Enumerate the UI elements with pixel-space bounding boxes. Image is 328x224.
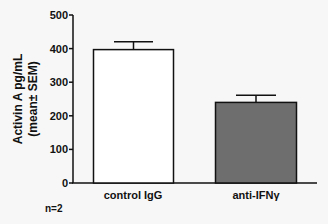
bar-chart: 0 100 200 300 400 500 Activin A pg/mL (m…: [0, 0, 328, 224]
bar-anti-ifng: [216, 95, 297, 183]
bar-control-igg: [94, 42, 174, 183]
y-tick-label: 100: [50, 143, 68, 155]
y-tick-label: 300: [50, 76, 68, 88]
x-category-label: control IgG: [104, 189, 163, 201]
y-tick-label: 400: [50, 43, 68, 55]
y-axis-title-line2: (mean± SEM): [26, 61, 40, 136]
y-axis-title-line1: Activin A pg/mL: [11, 54, 25, 144]
y-tick-label: 200: [50, 110, 68, 122]
sample-size-note: n=2: [45, 203, 63, 214]
y-tick-label: 0: [62, 177, 68, 189]
y-tick-label: 500: [50, 9, 68, 21]
y-axis-title: Activin A pg/mL (mean± SEM): [11, 54, 40, 144]
x-category-label: anti-IFNγ: [232, 189, 280, 201]
y-tick-labels: 0 100 200 300 400 500: [50, 9, 68, 189]
